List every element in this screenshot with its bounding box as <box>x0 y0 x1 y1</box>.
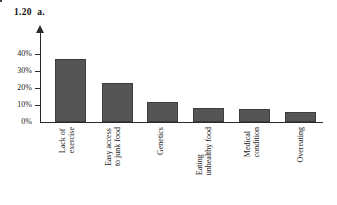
bar-medical-condition <box>239 109 270 122</box>
y-tick-label-20: 20% <box>2 84 32 92</box>
x-tick-label-medical-condition: Medical condition <box>243 127 261 157</box>
y-tick-30 <box>35 71 40 72</box>
bar-eating-unhealthy-food <box>193 108 224 122</box>
x-tick-label-genetics: Genetics <box>156 127 165 155</box>
x-tick-label-overeating: Overeating <box>296 127 305 163</box>
bar-chart-plot-area: 40% 30% 20% 10% 0% Lack of exercise Easy… <box>0 0 337 205</box>
x-tick-label-eating-unhealthy-food: Eating unhealthy food <box>195 127 213 175</box>
y-axis-line <box>40 31 41 122</box>
y-tick-label-30: 30% <box>2 67 32 75</box>
y-tick-40 <box>35 54 40 55</box>
y-tick-label-0: 0% <box>2 118 32 126</box>
figure-panel: 1.20 a. 40% 30% 20% 10% 0% Lack of exerc… <box>0 0 337 205</box>
bar-easy-access-junk-food <box>102 83 133 122</box>
x-tick-label-easy-access-junk-food: Easy access to junk food <box>104 127 122 166</box>
bar-placeholder <box>0 0 2 2</box>
bar-overeating <box>285 112 316 122</box>
bar-lack-of-exercise <box>55 59 86 122</box>
y-tick-label-40: 40% <box>2 50 32 58</box>
y-tick-20 <box>35 88 40 89</box>
x-axis-line <box>40 122 323 123</box>
x-tick-label-lack-of-exercise: Lack of exercise <box>58 127 76 153</box>
bar-genetics <box>147 102 178 122</box>
y-tick-10 <box>35 105 40 106</box>
y-tick-label-10: 10% <box>2 101 32 109</box>
y-axis-arrow-icon <box>36 25 44 33</box>
